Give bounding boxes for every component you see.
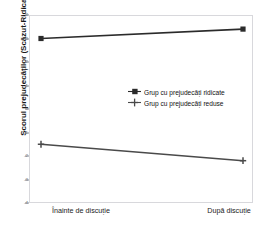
- legend-item-low: Grup cu prejudecăți reduse: [128, 97, 225, 108]
- chart-legend: Grup cu prejudecăți ridicate Grup cu pre…: [128, 86, 225, 108]
- x-axis-tick-labels: Înainte de discuțieDupă discuție: [0, 206, 259, 220]
- x-tick-label: După discuție: [207, 206, 251, 215]
- filled-square-marker: [128, 86, 142, 97]
- clipped-caption-strip: [0, 0, 259, 12]
- x-tick-label: Înainte de discuție: [52, 206, 110, 215]
- data-point-marker: [38, 36, 43, 41]
- data-point-marker: [240, 27, 245, 32]
- chart-series: [38, 27, 245, 42]
- plus-marker: [128, 97, 142, 108]
- series-line: [41, 144, 243, 160]
- plot-lines-layer: [29, 15, 253, 203]
- series-line: [41, 29, 243, 38]
- chart-series: [38, 141, 246, 164]
- chart-figure: Scorul prejudecăților (Scăzut-Ridicat) 4…: [0, 0, 259, 226]
- legend-label-low: Grup cu prejudecăți reduse: [144, 100, 224, 107]
- legend-label-high: Grup cu prejudecăți ridicate: [144, 89, 225, 96]
- legend-item-high: Grup cu prejudecăți ridicate: [128, 86, 225, 97]
